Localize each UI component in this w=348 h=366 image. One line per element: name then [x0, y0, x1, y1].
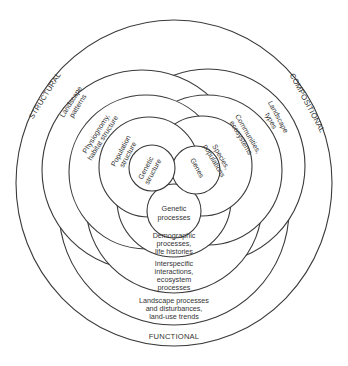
biodiversity-diagram: STRUCTURAL COMPOSITIONAL FUNCTIONAL Land… — [0, 0, 348, 366]
svg-text:Genetic: Genetic — [162, 204, 187, 213]
svg-text:processes: processes — [158, 213, 191, 222]
svg-text:land-use trends: land-use trends — [149, 312, 199, 321]
functional-population-label: Demographic processes, life histories — [153, 231, 196, 256]
svg-text:life histories: life histories — [155, 247, 193, 256]
functional-label: FUNCTIONAL — [149, 332, 200, 341]
svg-text:processes: processes — [158, 283, 191, 292]
functional-community-label: Interspecific interactions, ecosystem pr… — [155, 259, 194, 292]
functional-genetic-label: Genetic processes — [158, 204, 191, 222]
